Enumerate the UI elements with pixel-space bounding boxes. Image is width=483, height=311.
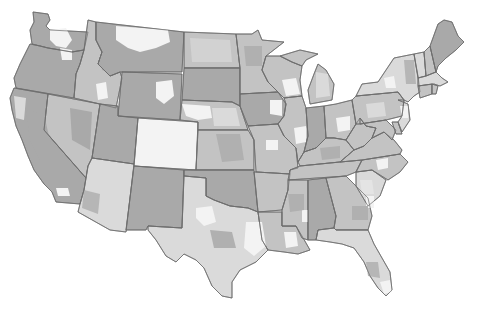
- us-choropleth-map: [0, 0, 483, 311]
- region-dark-ny: [404, 60, 416, 84]
- region-dark-tx: [210, 230, 236, 248]
- region-light-pa: [366, 102, 386, 118]
- region-light-mi: [316, 72, 330, 98]
- region-lightest-nw-or: [60, 48, 72, 60]
- region-lightest-il: [294, 126, 306, 144]
- state-FL: [316, 228, 392, 296]
- region-lightest-ny: [384, 76, 396, 88]
- region-lightest-mo: [266, 140, 278, 150]
- map-canvas: [0, 0, 483, 311]
- region-lightest-nc: [376, 158, 388, 170]
- region-dark-ky: [320, 146, 340, 160]
- region-lightest-ia: [270, 100, 282, 116]
- region-light-ne: [212, 108, 240, 126]
- region-dark-ms: [288, 194, 304, 212]
- region-lightest-id: [96, 82, 108, 100]
- region-dark-mn: [244, 46, 262, 66]
- region-lightest-la: [284, 232, 298, 248]
- state-NM: [126, 166, 184, 230]
- region-lightest-oh: [336, 116, 350, 132]
- region-dark-fl: [366, 262, 380, 278]
- region-lightest-ms: [302, 210, 308, 222]
- state-ME: [430, 20, 464, 72]
- region-lightest-ca-south: [56, 188, 70, 196]
- region-dark-ga: [352, 206, 368, 220]
- region-light-nd: [190, 38, 232, 62]
